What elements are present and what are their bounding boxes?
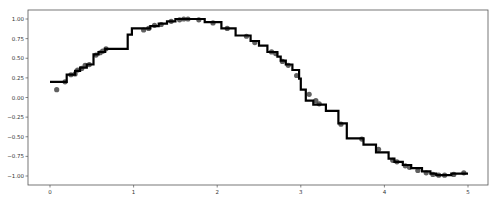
- y-tick-label: −0.25: [7, 114, 24, 120]
- x-tick-label: 1: [132, 189, 136, 195]
- y-tick-label: 1.00: [12, 16, 25, 22]
- step-regression-chart: 012345 1.000.750.500.250.00−0.25−0.50−0.…: [0, 0, 493, 205]
- y-tick-label: 0.25: [12, 75, 25, 81]
- y-tick-label: 0.75: [12, 36, 25, 42]
- x-tick-label: 0: [48, 189, 52, 195]
- x-tick-label: 4: [383, 189, 387, 195]
- y-tick-label: −0.50: [7, 134, 24, 140]
- y-tick-label: −0.75: [7, 153, 24, 159]
- x-tick-label: 3: [299, 189, 303, 195]
- x-tick-label: 2: [215, 189, 219, 195]
- x-axis: 012345: [48, 185, 470, 195]
- y-tick-label: 0.50: [12, 55, 25, 61]
- plot-frame: [28, 10, 488, 185]
- y-axis: 1.000.750.500.250.00−0.25−0.50−0.75−1.00: [7, 16, 28, 179]
- y-tick-label: 0.00: [12, 95, 25, 101]
- data-point: [54, 87, 59, 92]
- data-point: [307, 92, 312, 97]
- x-tick-label: 5: [466, 189, 470, 195]
- y-tick-label: −1.00: [7, 173, 24, 179]
